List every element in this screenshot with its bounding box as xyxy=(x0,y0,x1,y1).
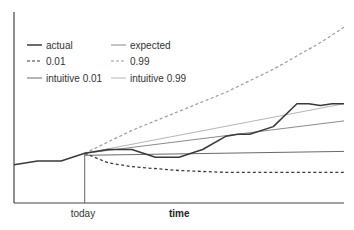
legend-item-expected: expected xyxy=(111,40,171,51)
legend-item-intuitive-0-99: intuitive 0.99 xyxy=(111,73,187,84)
legend-label-intuitive-0-01: intuitive 0.01 xyxy=(46,73,103,84)
legend-label-actual: actual xyxy=(46,40,73,51)
series-line-0-01 xyxy=(85,153,344,172)
legend-item-0-01: 0.01 xyxy=(27,56,66,67)
x-axis-title: time xyxy=(169,208,190,219)
legend-item-intuitive-0-01: intuitive 0.01 xyxy=(27,73,103,84)
line-chart: actual expected 0.01 0.99 intuitive 0.01… xyxy=(0,0,354,230)
x-annotation-today: today xyxy=(71,208,95,219)
legend-label-intuitive-0-99: intuitive 0.99 xyxy=(130,73,187,84)
legend-item-0-99: 0.99 xyxy=(111,56,150,67)
legend-label-0-01: 0.01 xyxy=(46,56,66,67)
legend-item-actual: actual xyxy=(27,40,73,51)
series-line-expected xyxy=(85,121,344,153)
legend-label-0-99: 0.99 xyxy=(130,56,150,67)
legend-label-expected: expected xyxy=(130,40,171,51)
series-line-intuitive-0-99 xyxy=(85,104,344,154)
legend: actual expected 0.01 0.99 intuitive 0.01… xyxy=(27,40,187,84)
series-line-intuitive-0-01 xyxy=(85,151,344,155)
series-line-0-99 xyxy=(85,27,344,153)
